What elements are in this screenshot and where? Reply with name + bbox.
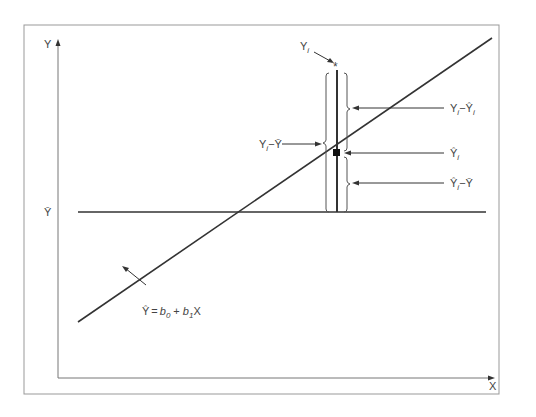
x-axis-label: X [489,380,497,392]
frame-border [24,25,499,394]
total-deviation-arrowhead-icon [315,142,322,147]
predicted-point [333,149,340,156]
yi-label: Yi [300,40,309,55]
total-deviation-label: Yi−Ȳ [259,138,283,153]
explained-label: Ŷi−Ȳ [450,177,474,192]
total-deviation-brace [323,73,329,212]
y-mean-label: Ȳ [44,206,52,218]
regression-equation: Ŷ=b0+b1X [142,305,201,320]
regression-line [78,38,492,322]
y-axis-arrow-icon [56,39,61,46]
explained-brace [344,157,350,212]
explained-arrowhead-icon [352,181,359,186]
regression-diagram: Y X Ȳ * Yi Yi−Ȳ Yi−Ŷi Ŷi Ŷi−Ȳ Ŷ=b0+b1X [0,0,536,417]
y-axis-label: Y [44,38,52,50]
equation-arrowhead-icon [122,266,129,272]
residual-arrowhead-icon [352,106,359,111]
observed-point: * [333,60,338,74]
yhat-i-label: Ŷi [450,147,459,162]
residual-label: Yi−Ŷi [450,102,475,117]
